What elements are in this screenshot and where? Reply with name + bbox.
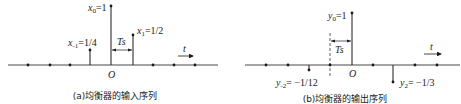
input-sequence-diagram: x-1=1/4 x0=1 x1=1/2 Ts O t (a)均衡器的输入序列 [8,2,218,101]
time-direction-arrow-icon: t [178,43,193,56]
origin-label: O [349,68,356,79]
ts-label: Ts [335,44,344,55]
sample-label: y0=1 [327,10,347,23]
time-direction-arrow-icon: t [424,41,441,54]
equalizer-sequence-figure: x-1=1/4 x0=1 x1=1/2 Ts O t (a)均衡器的输入序列 [0,0,461,104]
sample-label: y2= −1/3 [399,77,435,90]
caption-a: (a)均衡器的输入序列 [73,90,158,101]
ts-label: Ts [117,36,126,47]
ts-spacing-indicator: Ts [112,36,132,52]
sample-x-0: x0=1 [87,2,112,65]
ts-spacing-indicator: Ts [331,40,351,56]
sample-label: y-2= −1/12 [275,77,318,90]
output-sequence-diagram: y-2= −1/12 y0=1 y2= −1/3 Ts O t (b)均衡器的输… [245,10,460,104]
sample-label: x-1=1/4 [67,37,97,50]
sample-y-0: y0=1 [327,10,353,65]
sample-label: x1=1/2 [136,25,163,38]
sample-x-minus-1: x-1=1/4 [67,37,97,65]
sample-y-minus-2: y-2= −1/12 [275,65,318,90]
sample-label: x0=1 [87,2,107,15]
time-label: t [183,43,186,54]
time-label: t [430,41,433,52]
caption-b: (b)均衡器的输出序列 [303,93,388,104]
sample-y-2: y2= −1/3 [392,65,435,90]
origin-label: O [108,69,115,80]
sample-x-1: x1=1/2 [132,25,164,65]
